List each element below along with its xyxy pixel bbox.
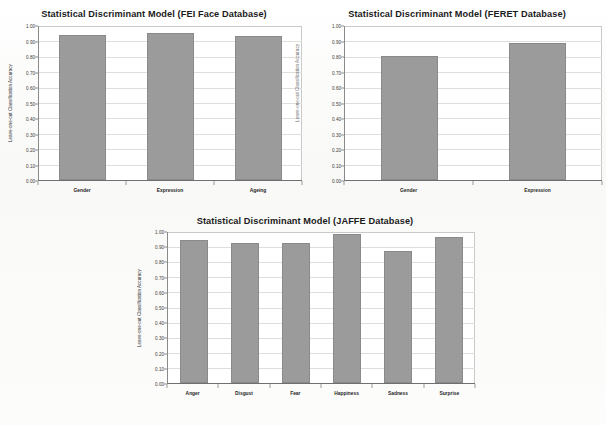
plot-canvas-fei [38,26,302,181]
x-tick-label: Anger [167,391,218,396]
bar-series-fei [39,26,302,180]
y-tick-label: 0.40 [26,117,35,122]
y-tick-label: 0.20 [26,148,35,153]
y-tick-label: 0.30 [332,132,341,137]
bar-gender [59,35,106,180]
y-tick-label: 0.60 [332,86,341,91]
x-tick-label: Disgust [218,391,269,396]
x-tick-mark [602,181,603,185]
bar-anger [180,240,208,383]
y-axis-ticks-fei: 1.000.900.800.700.600.500.400.300.200.10… [15,26,38,181]
y-tick-label: 1.00 [155,230,164,235]
y-tick-label: 0.60 [155,290,164,295]
y-tick-label: 0.60 [26,86,35,91]
x-axis-labels-jaffe: AngerDisgustFearHappinessSadnessSurprise [135,391,475,396]
x-tickmarks-feret [344,181,602,185]
bar-happiness [333,234,361,383]
y-axis-label-fei: Leave-one-out Classification Accuracy [6,26,15,181]
x-tick-label: Fear [270,391,321,396]
y-tick-label: 0.90 [155,245,164,250]
y-tick-label: 0.00 [332,179,341,184]
x-tick-mark [475,384,476,388]
y-tick-label: 0.30 [26,132,35,137]
x-tickmarks-fei [38,181,302,185]
x-tick-mark [126,181,127,185]
x-tick-mark [302,181,303,185]
x-tick-mark [473,181,474,185]
y-tick-label: 0.40 [155,321,164,326]
x-tick-label: Ageing [214,188,302,193]
x-tick-label: Gender [344,188,473,193]
x-tick-mark [214,181,215,185]
y-tick-label: 0.40 [332,117,341,122]
bar-disgust [231,243,259,383]
bar-gender [381,56,438,180]
plot-canvas-feret [344,26,602,181]
x-tick-label: Expression [473,188,602,193]
plot-area-jaffe: Leave-one-out Classification Accuracy 1.… [135,232,475,384]
chart-title-fei: Statistical Discriminant Model (FEI Face… [6,9,302,19]
y-tick-label: 1.00 [26,24,35,29]
x-tick-mark [167,384,168,388]
y-axis-ticks-feret: 1.000.900.800.700.600.500.400.300.200.10… [321,26,344,181]
x-axis-labels-fei: GenderExpressionAgeing [6,188,302,193]
y-tick-label: 0.00 [26,179,35,184]
chart-panel-feret: Statistical Discriminant Model (FERET Da… [312,4,602,212]
y-tick-label: 0.70 [26,70,35,75]
x-tick-label: Sadness [372,391,423,396]
x-tick-label: Expression [126,188,214,193]
y-tick-label: 0.50 [26,101,35,106]
bar-sadness [384,251,412,383]
y-tick-label: 0.80 [155,260,164,265]
stray-y-axis-label: Leave-one-out Classification Accuracy [295,44,300,122]
y-axis-label-feret [312,26,321,181]
x-tick-label: Happiness [321,391,372,396]
y-tick-label: 0.20 [332,148,341,153]
x-axis-labels-feret: GenderExpression [312,188,602,193]
y-tick-label: 0.70 [155,275,164,280]
y-tick-label: 0.00 [155,382,164,387]
bar-expression [509,43,566,180]
plot-area-fei: Leave-one-out Classification Accuracy 1.… [6,26,302,181]
x-tick-label: Gender [38,188,126,193]
bar-ageing [235,36,282,180]
y-tick-label: 0.10 [332,163,341,168]
plot-canvas-jaffe [167,232,475,384]
y-tick-label: 0.70 [332,70,341,75]
x-tickmarks-jaffe [167,384,475,388]
bar-expression [147,33,194,180]
y-tick-label: 0.10 [155,366,164,371]
x-tick-mark [218,384,219,388]
bar-series-jaffe [168,232,475,383]
chart-panel-jaffe: Statistical Discriminant Model (JAFFE Da… [135,212,475,421]
y-tick-label: 1.00 [332,24,341,29]
x-tick-mark [38,181,39,185]
bar-series-feret [345,26,602,180]
y-tick-label: 0.80 [332,55,341,60]
y-tick-label: 0.90 [26,39,35,44]
x-tick-mark [269,384,270,388]
y-tick-label: 0.50 [332,101,341,106]
x-tick-mark [344,181,345,185]
y-tick-label: 0.90 [332,39,341,44]
x-tick-mark [423,384,424,388]
bar-fear [282,243,310,383]
plot-area-feret: 1.000.900.800.700.600.500.400.300.200.10… [312,26,602,181]
y-tick-label: 0.20 [155,351,164,356]
y-tick-label: 0.50 [155,306,164,311]
x-tick-mark [321,384,322,388]
bar-surprise [435,237,463,383]
y-tick-label: 0.80 [26,55,35,60]
y-tick-label: 0.10 [26,163,35,168]
chart-panel-fei: Statistical Discriminant Model (FEI Face… [6,4,302,212]
y-axis-label-jaffe: Leave-one-out Classification Accuracy [135,232,144,384]
x-tick-label: Surprise [424,391,475,396]
y-axis-ticks-jaffe: 1.000.900.800.700.600.500.400.300.200.10… [144,232,167,384]
y-tick-label: 0.30 [155,336,164,341]
x-tick-mark [372,384,373,388]
chart-title-feret: Statistical Discriminant Model (FERET Da… [312,9,602,19]
chart-title-jaffe: Statistical Discriminant Model (JAFFE Da… [135,216,475,226]
